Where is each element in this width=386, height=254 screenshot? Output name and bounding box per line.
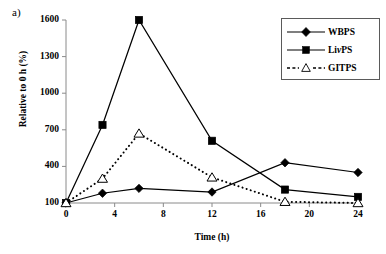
- x-tick-4: 4: [100, 210, 130, 220]
- figure-panel-a: a) Relative to 0 h (%) Time (h) 10040070…: [0, 0, 386, 254]
- x-tick-8: 8: [148, 210, 178, 220]
- y-tick-100: 100: [23, 198, 59, 208]
- data-point-livps-t3: [99, 121, 106, 128]
- data-point-livps-t18: [281, 186, 288, 193]
- data-point-wbps-t18: [281, 159, 289, 167]
- legend-label-livps: LivPS: [326, 45, 352, 55]
- x-tick-20: 20: [294, 210, 324, 220]
- x-axis-title: Time (h): [66, 232, 358, 242]
- chart-legend: WBPS LivPS GITPS: [281, 18, 380, 80]
- data-point-gitps-t6: [134, 129, 144, 137]
- y-tick-400: 400: [23, 161, 59, 171]
- y-tick-1600: 1600: [23, 15, 59, 25]
- data-point-wbps-t3: [98, 189, 106, 197]
- y-tick-1300: 1300: [23, 52, 59, 62]
- data-point-wbps-t6: [135, 184, 143, 192]
- legend-marker-open-triangle-icon: [286, 61, 326, 75]
- legend-item-gitps: GITPS: [286, 59, 375, 77]
- data-point-livps-t12: [208, 137, 215, 144]
- x-tick-0: 0: [51, 210, 81, 220]
- legend-item-livps: LivPS: [286, 41, 375, 59]
- legend-label-wbps: WBPS: [326, 27, 355, 37]
- x-tick-24: 24: [343, 210, 373, 220]
- data-point-gitps-t12: [207, 173, 217, 181]
- y-tick-700: 700: [23, 125, 59, 135]
- data-point-wbps-t24: [354, 168, 362, 176]
- legend-marker-filled-square-icon: [286, 43, 326, 57]
- data-point-wbps-t12: [208, 188, 216, 196]
- legend-label-gitps: GITPS: [326, 63, 357, 73]
- data-point-livps-t6: [135, 16, 142, 23]
- data-point-gitps-t18: [280, 197, 290, 205]
- legend-item-wbps: WBPS: [286, 23, 375, 41]
- data-point-gitps-t3: [98, 174, 108, 182]
- legend-marker-filled-diamond-icon: [286, 25, 326, 39]
- x-tick-16: 16: [246, 210, 276, 220]
- y-tick-1000: 1000: [23, 88, 59, 98]
- x-tick-12: 12: [197, 210, 227, 220]
